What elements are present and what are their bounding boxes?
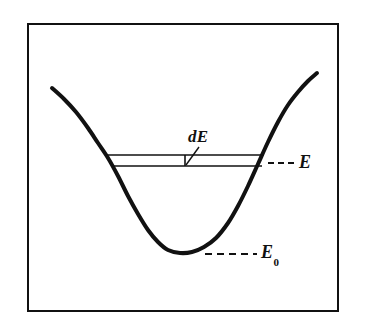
E0-base: E <box>261 242 273 262</box>
dE-label: dE <box>188 128 208 145</box>
E0-label: E0 <box>261 243 279 265</box>
E0-subscript: 0 <box>274 256 280 268</box>
potential-well-figure <box>0 0 366 330</box>
E-label: E <box>299 153 311 171</box>
figure-root: dE E E0 <box>0 0 366 330</box>
figure-background <box>0 0 366 330</box>
